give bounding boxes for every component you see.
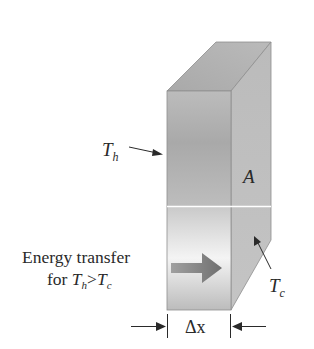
slab-front-face-lower: [167, 206, 231, 310]
thickness-left-arrowhead-icon: [156, 322, 166, 331]
label-t-hot: Th: [102, 139, 119, 164]
heat-conduction-slab-diagram: Th A Tc Energy transfer for Th>Tc Δx: [0, 0, 314, 349]
slab-front-face-upper: [167, 91, 231, 206]
t-hot-arrowhead-icon: [152, 149, 163, 156]
label-energy-transfer: Energy transfer: [22, 247, 130, 267]
label-area: A: [241, 166, 255, 187]
label-thickness: Δx: [185, 317, 206, 337]
thickness-right-arrowhead-icon: [232, 322, 242, 331]
label-t-cold: Tc: [269, 275, 286, 300]
label-energy-condition: for Th>Tc: [47, 269, 112, 291]
